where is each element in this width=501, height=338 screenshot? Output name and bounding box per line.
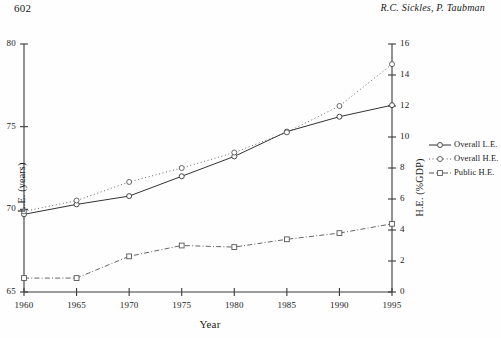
data-point-marker: [284, 130, 289, 135]
chart-plot-area: [0, 30, 501, 338]
running-head: R.C. Sickles, P. Taubman: [380, 2, 485, 13]
data-point-marker: [284, 237, 289, 242]
y-tick-right: 10: [400, 131, 422, 141]
y-tick-left: 70: [0, 203, 16, 213]
y-axis-label-right: H.E. (%GDP): [414, 143, 425, 233]
chart-series: [22, 62, 395, 281]
y-tick-right: 0: [400, 286, 422, 296]
y-tick-right: 8: [400, 162, 422, 172]
legend-item: Public H.E.: [428, 166, 500, 180]
data-point-marker: [127, 254, 132, 259]
y-tick-left: 80: [0, 38, 16, 48]
chart-legend: Overall L.E.Overall H.E.Public H.E.: [428, 138, 500, 180]
legend-circle-icon: [428, 138, 452, 152]
data-point-marker: [390, 62, 395, 67]
x-tick: 1975: [162, 300, 202, 310]
data-point-marker: [74, 276, 79, 281]
y-tick-right: 12: [400, 100, 422, 110]
y-axis-label-left: L.E. (years): [16, 143, 27, 233]
y-tick-right: 6: [400, 193, 422, 203]
data-point-marker: [337, 104, 342, 109]
data-point-marker: [179, 174, 184, 179]
x-axis-label: Year: [160, 318, 260, 330]
series-line: [24, 64, 392, 211]
x-tick: 1965: [57, 300, 97, 310]
data-point-marker: [127, 179, 132, 184]
data-point-marker: [74, 198, 79, 203]
data-point-marker: [337, 231, 342, 236]
data-point-marker: [22, 276, 27, 281]
x-tick: 1995: [372, 300, 412, 310]
x-tick: 1980: [214, 300, 254, 310]
y-tick-left: 65: [0, 286, 16, 296]
y-tick-right: 14: [400, 69, 422, 79]
page-number: 602: [14, 2, 31, 14]
y-tick-right: 2: [400, 255, 422, 265]
chart-axes: [20, 44, 396, 296]
legend-label: Overall L.E.: [454, 139, 497, 149]
data-point-marker: [179, 166, 184, 171]
data-point-marker: [179, 243, 184, 248]
figure-page: 602 R.C. Sickles, P. Taubman L.E. (years…: [0, 0, 501, 338]
y-tick-right: 4: [400, 224, 422, 234]
data-point-marker: [232, 150, 237, 155]
data-point-marker: [232, 245, 237, 250]
data-point-marker: [127, 194, 132, 199]
legend-label: Public H.E.: [454, 167, 495, 177]
legend-item: Overall L.E.: [428, 138, 500, 152]
y-tick-left: 75: [0, 121, 16, 131]
x-tick: 1985: [267, 300, 307, 310]
legend-circle-icon: [428, 152, 452, 166]
legend-label: Overall H.E.: [454, 153, 498, 163]
data-point-marker: [390, 103, 395, 108]
y-tick-right: 16: [400, 38, 422, 48]
series-line: [24, 105, 392, 214]
legend-square-icon: [428, 166, 452, 180]
x-tick: 1960: [4, 300, 44, 310]
legend-item: Overall H.E.: [428, 152, 500, 166]
x-tick: 1990: [319, 300, 359, 310]
data-point-marker: [390, 221, 395, 226]
line-chart-figure: L.E. (years) H.E. (%GDP) Year 65707580 0…: [0, 30, 501, 338]
data-point-marker: [337, 114, 342, 119]
x-tick: 1970: [109, 300, 149, 310]
